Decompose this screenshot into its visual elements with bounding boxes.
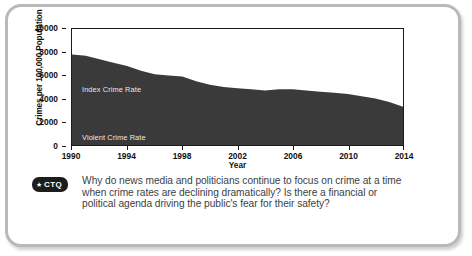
crime-rate-area-chart: Crimes per 100,000 Population 0200040006… — [16, 15, 456, 167]
x-tick-label: 1998 — [173, 151, 192, 161]
index-crime-rate-label: Index Crime Rate — [82, 85, 141, 94]
x-tick-mark — [127, 146, 128, 150]
y-axis-tick-labels: 0200040006000800010000 — [32, 28, 66, 146]
x-axis-title: Year — [71, 161, 404, 170]
figure-card: Crimes per 100,000 Population 0200040006… — [5, 4, 461, 247]
y-tick-mark — [62, 52, 66, 53]
y-tick-label: 10000 — [35, 24, 58, 32]
x-tick-mark — [349, 146, 350, 150]
y-tick-mark — [62, 75, 66, 76]
x-tick-mark — [238, 146, 239, 150]
ctq-badge: ★ CTQ — [32, 177, 68, 192]
y-tick-label: 6000 — [39, 71, 58, 79]
ctq-badge-label: CTQ — [44, 181, 62, 189]
star-icon: ★ — [36, 181, 42, 188]
x-tick-mark — [293, 146, 294, 150]
x-tick-mark — [71, 146, 72, 150]
y-tick-label: 4000 — [39, 95, 58, 103]
y-tick-label: 0 — [53, 142, 58, 150]
y-tick-mark — [62, 122, 66, 123]
y-tick-mark — [62, 146, 66, 147]
x-tick-label: 2006 — [284, 151, 303, 161]
x-tick-label: 1990 — [62, 151, 81, 161]
x-tick-label: 2014 — [395, 151, 414, 161]
x-tick-label: 2010 — [339, 151, 358, 161]
x-tick-label: 2002 — [228, 151, 247, 161]
question-text: Why do news media and politicians contin… — [82, 175, 412, 210]
y-tick-label: 8000 — [39, 48, 58, 56]
critical-thinking-question: ★ CTQ Why do news media and politicians … — [32, 175, 444, 210]
y-tick-mark — [62, 28, 66, 29]
plot-area: Index Crime Rate Violent Crime Rate — [71, 28, 404, 146]
y-tick-label: 2000 — [39, 118, 58, 126]
y-tick-mark — [62, 99, 66, 100]
x-tick-label: 1994 — [117, 151, 136, 161]
x-tick-mark — [403, 146, 404, 150]
index-crime-rate-area — [72, 55, 403, 145]
violent-crime-rate-label: Violent Crime Rate — [82, 133, 146, 142]
x-tick-mark — [182, 146, 183, 150]
